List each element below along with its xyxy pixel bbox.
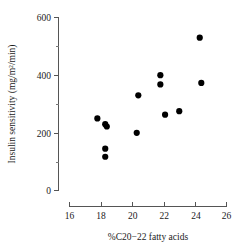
data-point — [157, 81, 163, 87]
data-point — [134, 130, 140, 136]
x-tick-label-16: 16 — [65, 211, 75, 221]
y-axis-title: Insulin sensitivity (mg/m²/min) — [7, 45, 18, 164]
x-tick-label-22: 22 — [160, 211, 170, 221]
data-point — [176, 108, 182, 114]
data-point — [198, 80, 204, 86]
data-point — [94, 115, 100, 121]
plot-canvas: 600 400 200 0 Insulin sensitivity (mg/m²… — [0, 0, 247, 251]
data-point — [102, 154, 108, 160]
x-tick-label-18: 18 — [96, 211, 106, 221]
data-points-layer — [94, 35, 204, 160]
x-axis-major-ticks — [70, 202, 227, 207]
data-point — [135, 92, 141, 98]
data-point — [104, 123, 110, 129]
y-tick-label-200: 200 — [37, 129, 52, 139]
scatter-plot-figure: 600 400 200 0 Insulin sensitivity (mg/m²… — [0, 0, 247, 251]
x-axis-title: %C20−22 fatty acids — [108, 232, 189, 242]
data-point — [157, 72, 163, 78]
data-point — [162, 112, 168, 118]
data-point — [102, 146, 108, 152]
y-tick-label-400: 400 — [37, 71, 52, 81]
x-tick-label-20: 20 — [128, 211, 138, 221]
y-tick-label-600: 600 — [37, 13, 52, 23]
x-tick-label-24: 24 — [191, 211, 201, 221]
x-tick-label-26: 26 — [222, 211, 232, 221]
y-tick-label-0: 0 — [46, 186, 51, 196]
data-point — [197, 35, 203, 41]
y-axis-tick-labels: 600 400 200 0 — [37, 13, 52, 196]
x-axis-tick-labels: 16 18 20 22 24 26 — [65, 211, 232, 221]
